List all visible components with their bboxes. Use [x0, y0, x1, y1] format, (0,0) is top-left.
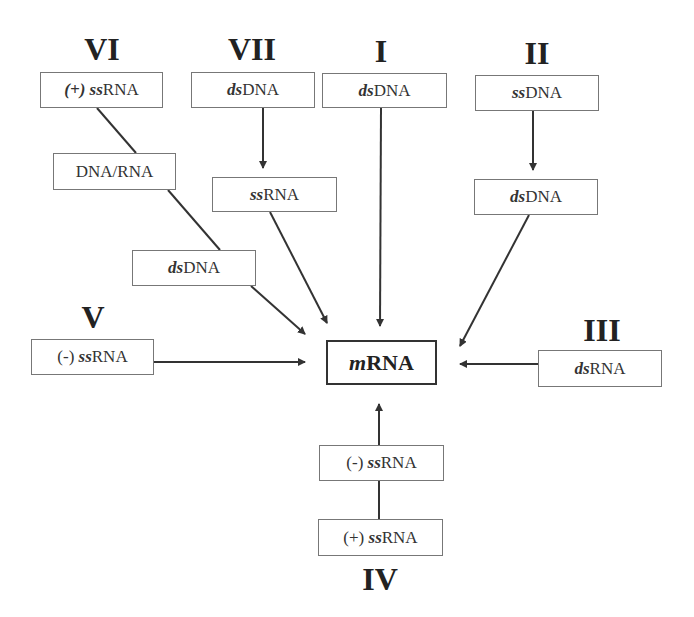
node-ii-ssdna: ssDNA [475, 75, 599, 111]
node-text: RNA [382, 528, 418, 548]
class-label-v: V [53, 301, 133, 333]
node-text-italic: m [349, 350, 366, 376]
class-label-vi: VI [62, 33, 142, 65]
node-i-dsdna: dsDNA [322, 73, 447, 108]
arrow-vi-to-mrna [251, 286, 305, 334]
node-ii-dsdna: dsDNA [474, 179, 598, 215]
node-vii-dsdna: dsDNA [191, 72, 315, 108]
node-text: DNA [183, 258, 220, 278]
node-text: RNA [366, 350, 414, 376]
node-text: DNA [242, 80, 279, 100]
node-text-italic: (+) ss [64, 80, 103, 100]
class-label-ii: II [497, 37, 577, 69]
node-text: RNA [263, 185, 299, 205]
node-text: DNA [374, 81, 411, 101]
node-text: DNA/RNA [76, 162, 153, 182]
node-mrna: mRNA [326, 340, 437, 385]
node-v-minus-ssrna: (-) ssRNA [31, 339, 154, 375]
node-text-italic: ss [369, 528, 382, 548]
arrow-vii-to-mrna [270, 212, 327, 323]
node-text-italic: ds [359, 81, 374, 101]
node-vi-dsdna: dsDNA [132, 250, 256, 286]
node-text: RNA [92, 347, 128, 367]
node-text-plain: (-) [346, 453, 363, 473]
class-label-vii: VII [212, 33, 292, 65]
node-text: DNA [525, 187, 562, 207]
line-vi-1 [97, 108, 136, 153]
node-iv-minus-ssrna: (-) ssRNA [319, 445, 444, 481]
baltimore-diagram: VI VII I II V III IV (+) ssRNA DNA/RNA d… [0, 0, 694, 617]
node-text-italic: ds [227, 80, 242, 100]
class-label-iv: IV [340, 563, 420, 595]
node-text-italic: ds [168, 258, 183, 278]
node-text-italic: ss [250, 185, 263, 205]
node-text-italic: ds [510, 187, 525, 207]
node-vi-plus-ssrna: (+) ssRNA [40, 72, 163, 108]
node-text-italic: ss [368, 453, 381, 473]
class-label-iii: III [562, 314, 642, 346]
arrow-ii-to-mrna [460, 215, 529, 346]
node-text: RNA [381, 453, 417, 473]
node-iii-dsrna: dsRNA [538, 350, 662, 387]
class-label-i: I [341, 35, 421, 67]
node-vi-dna-rna: DNA/RNA [53, 153, 176, 190]
node-text-plain: (+) [343, 528, 364, 548]
node-text-italic: ss [79, 347, 92, 367]
node-text-plain: (-) [57, 347, 74, 367]
node-text: RNA [103, 80, 139, 100]
node-text: RNA [590, 359, 626, 379]
node-vii-ssrna: ssRNA [212, 177, 337, 212]
arrow-i-to-mrna [380, 108, 381, 326]
node-iv-plus-ssrna: (+) ssRNA [318, 519, 443, 556]
node-text: DNA [525, 83, 562, 103]
node-text-italic: ds [574, 359, 589, 379]
node-text-italic: ss [512, 83, 525, 103]
